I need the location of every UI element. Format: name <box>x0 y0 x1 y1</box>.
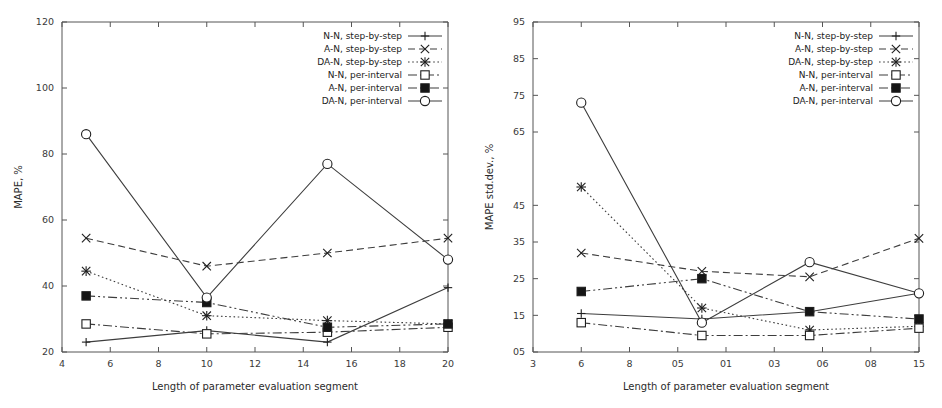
data-point-marker <box>82 234 90 242</box>
series-1 <box>82 234 452 270</box>
legend-marker <box>420 96 429 105</box>
data-point-marker <box>82 338 90 346</box>
mape-panel: 20406080100120468101214161820Length of p… <box>0 0 471 408</box>
legend-item: DA-N, step-by-step <box>317 57 442 67</box>
series-1 <box>577 234 923 281</box>
legend-label: A-N, per-interval <box>328 83 402 93</box>
chart-canvas: 051525354565758595368050103060815Length … <box>471 0 942 408</box>
legend: N-N, step-by-stepA-N, step-by-stepDA-N, … <box>317 31 442 106</box>
legend-item: A-N, per-interval <box>328 83 442 93</box>
legend-label: A-N, step-by-step <box>795 44 873 54</box>
series-2 <box>576 182 923 335</box>
y-tick-label: 100 <box>36 82 54 93</box>
data-point-marker <box>697 318 706 327</box>
x-tick-label: 03 <box>768 358 780 369</box>
y-tick-label: 05 <box>513 346 525 357</box>
series-layer <box>81 130 452 347</box>
legend-item: N-N, per-interval <box>328 70 442 80</box>
y-tick-label: 25 <box>513 273 525 284</box>
y-tick-label: 40 <box>42 280 54 291</box>
x-tick-label: 18 <box>394 358 406 369</box>
series-3 <box>577 318 923 339</box>
series-layer <box>576 98 923 340</box>
y-axis-title: MAPE, % <box>13 165 24 209</box>
legend-label: N-N, per-interval <box>328 70 402 80</box>
legend-item: N-N, per-interval <box>799 70 913 80</box>
legend-marker <box>892 84 900 92</box>
x-tick-label: 15 <box>913 358 925 369</box>
legend-label: N-N, step-by-step <box>794 31 873 41</box>
chart-canvas: 20406080100120468101214161820Length of p… <box>0 0 471 408</box>
data-point-marker <box>576 182 586 192</box>
data-point-marker <box>82 320 90 328</box>
y-tick-label: 45 <box>513 200 525 211</box>
y-axis-title: MAPE std.dev., % <box>484 144 495 230</box>
y-tick-label: 15 <box>513 310 525 321</box>
x-tick-label: 8 <box>626 358 632 369</box>
y-tick-label: 20 <box>42 346 54 357</box>
figure-container: 20406080100120468101214161820Length of p… <box>0 0 942 408</box>
legend-label: DA-N, per-interval <box>793 96 873 106</box>
data-point-marker <box>202 311 212 321</box>
x-tick-label: 05 <box>672 358 684 369</box>
x-tick-label: 8 <box>155 358 161 369</box>
series-3 <box>82 320 452 338</box>
y-tick-label: 60 <box>42 214 54 225</box>
legend-marker <box>892 71 900 79</box>
legend-marker <box>421 84 429 92</box>
data-point-marker <box>915 315 923 323</box>
data-point-marker <box>697 303 707 313</box>
legend-item: DA-N, per-interval <box>793 96 913 106</box>
legend-label: N-N, per-interval <box>799 70 873 80</box>
y-tick-label: 75 <box>513 90 525 101</box>
y-tick-label: 120 <box>36 16 54 27</box>
series-5 <box>577 98 924 327</box>
data-point-marker <box>577 309 585 317</box>
x-tick-label: 6 <box>578 358 584 369</box>
legend-item: DA-N, per-interval <box>322 96 442 106</box>
data-point-marker <box>323 338 331 346</box>
data-point-marker <box>323 159 332 168</box>
series-4 <box>82 292 452 332</box>
data-point-marker <box>914 289 923 298</box>
data-point-marker <box>577 98 586 107</box>
legend-marker <box>891 96 900 105</box>
data-point-marker <box>202 293 211 302</box>
x-tick-label: 08 <box>865 358 877 369</box>
data-point-marker <box>805 307 813 315</box>
y-tick-label: 35 <box>513 236 525 247</box>
data-point-marker <box>805 331 813 339</box>
series-5 <box>82 130 453 303</box>
legend-item: DA-N, step-by-step <box>788 57 913 67</box>
y-tick-label: 85 <box>513 53 525 64</box>
legend-marker <box>892 32 900 40</box>
legend-label: DA-N, per-interval <box>322 96 402 106</box>
legend-label: DA-N, step-by-step <box>788 57 873 67</box>
x-tick-label: 14 <box>297 358 309 369</box>
data-point-marker <box>577 318 585 326</box>
data-point-marker <box>698 331 706 339</box>
legend-item: N-N, step-by-step <box>323 31 442 41</box>
data-point-marker <box>444 283 452 291</box>
data-point-marker <box>577 287 585 295</box>
legend-marker <box>891 57 901 67</box>
y-tick-label: 95 <box>513 16 525 27</box>
x-tick-label: 12 <box>249 358 261 369</box>
x-axis-title: Length of parameter evaluation segment <box>623 381 829 392</box>
data-point-marker <box>81 266 91 276</box>
series-0 <box>577 289 923 323</box>
legend-item: A-N, step-by-step <box>795 44 913 54</box>
legend-item: A-N, per-interval <box>799 83 913 93</box>
data-point-marker <box>82 292 90 300</box>
data-point-marker <box>443 255 452 264</box>
legend-marker <box>421 32 429 40</box>
data-point-marker <box>698 274 706 282</box>
legend-marker <box>420 57 430 67</box>
data-point-marker <box>323 323 331 331</box>
y-tick-label: 65 <box>513 126 525 137</box>
data-point-marker <box>805 258 814 267</box>
data-point-marker <box>915 324 923 332</box>
legend-label: A-N, per-interval <box>799 83 873 93</box>
legend-marker <box>421 71 429 79</box>
legend-item: N-N, step-by-step <box>794 31 913 41</box>
